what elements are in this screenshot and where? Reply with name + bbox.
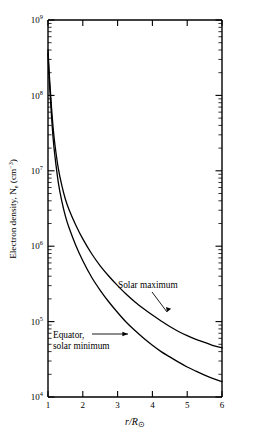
y-tick-label: 105 bbox=[31, 315, 43, 327]
y-tick-label: 104 bbox=[31, 390, 44, 402]
svg-text:r/R⊙: r/R⊙ bbox=[125, 416, 145, 429]
y-axis-label: Electron density, Ne (cm−3) bbox=[7, 159, 20, 259]
y-axis-label-unit-close: ) bbox=[8, 159, 18, 162]
y-tick-label: 109 bbox=[31, 13, 43, 25]
x-tick-label: 3 bbox=[115, 400, 120, 410]
figure-container: 104105106107108109 123456 Solar maximum … bbox=[0, 0, 254, 439]
sun-symbol-icon: ⊙ bbox=[138, 420, 145, 429]
annotation-equator-solar-minimum: Equator, solar minimum bbox=[53, 330, 128, 351]
x-axis-tick-labels: 123456 bbox=[46, 400, 225, 410]
x-tick-label: 5 bbox=[185, 400, 190, 410]
y-tick-label: 108 bbox=[31, 89, 43, 101]
annotation-equator-label-line2: solar minimum bbox=[53, 341, 110, 351]
x-axis-label: r/R⊙ bbox=[125, 416, 145, 429]
y-axis-tick-labels: 104105106107108109 bbox=[31, 13, 44, 402]
x-axis-label-denominator: R bbox=[131, 416, 138, 427]
annotation-solar-maximum: Solar maximum bbox=[118, 280, 178, 312]
electron-density-chart: 104105106107108109 123456 Solar maximum … bbox=[0, 0, 254, 439]
x-tick-label: 1 bbox=[46, 400, 51, 410]
annotation-equator-arrowhead bbox=[122, 332, 128, 337]
curve-solar-maximum bbox=[48, 50, 222, 348]
annotation-solar-maximum-leader bbox=[152, 292, 167, 312]
svg-text:Electron density, Ne (cm−3): Electron density, Ne (cm−3) bbox=[7, 159, 20, 259]
annotation-equator-label-line1: Equator, bbox=[53, 330, 84, 340]
annotation-solar-maximum-label: Solar maximum bbox=[118, 280, 178, 290]
x-tick-label: 2 bbox=[81, 400, 86, 410]
y-axis-label-unit-open: (cm bbox=[8, 169, 18, 186]
y-tick-label: 106 bbox=[31, 239, 43, 251]
y-axis-label-unit-exp: −3 bbox=[7, 162, 14, 169]
x-tick-label: 4 bbox=[150, 400, 155, 410]
y-axis-label-main: Electron density, N bbox=[8, 188, 18, 259]
x-tick-label: 6 bbox=[220, 400, 225, 410]
y-tick-label: 107 bbox=[31, 164, 43, 176]
